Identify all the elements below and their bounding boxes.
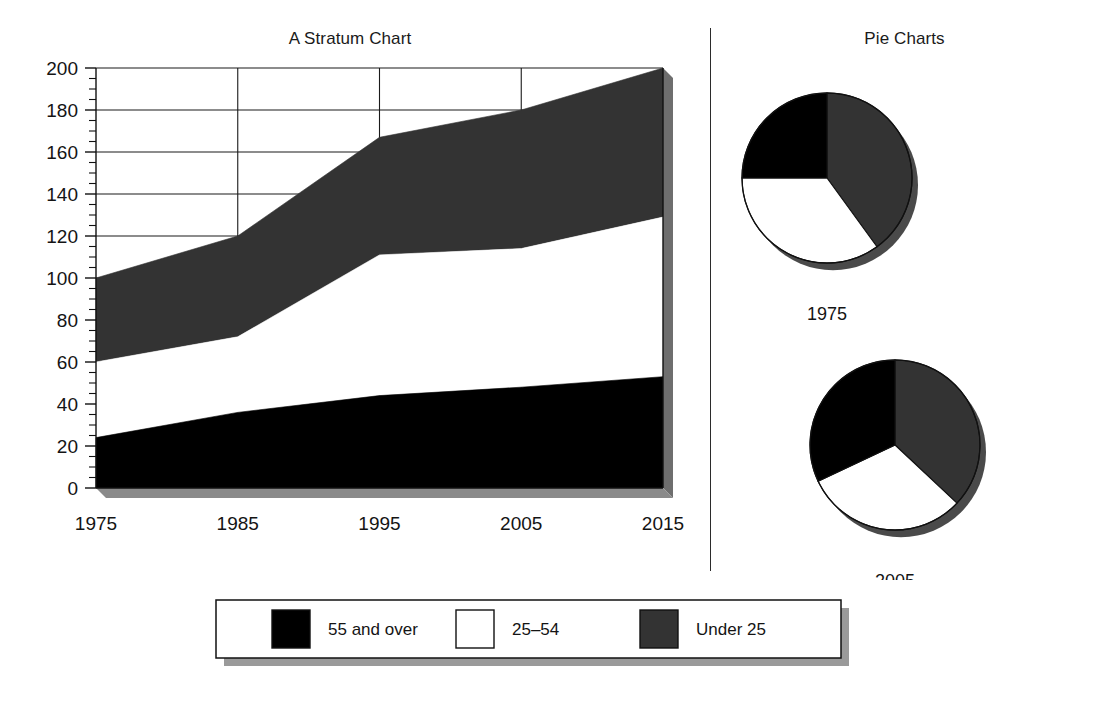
y-tick-label: 160: [46, 142, 78, 163]
pie-charts-title: Pie Charts: [712, 29, 1097, 49]
legend-swatch: [272, 610, 310, 648]
y-tick-label: 140: [46, 184, 78, 205]
y-tick-label: 100: [46, 268, 78, 289]
x-tick-label: 1995: [358, 513, 400, 534]
legend-swatch: [456, 610, 494, 648]
stratum-chart-title: A Stratum Chart: [0, 29, 700, 49]
stratum-chart: 0204060801001201401601802001975198519952…: [0, 50, 705, 560]
chart-legend: 55 and over25–54Under 25: [210, 596, 870, 686]
y-tick-label: 200: [46, 58, 78, 79]
y-tick-label: 0: [67, 478, 78, 499]
y-tick-label: 20: [57, 436, 78, 457]
legend-label: 25–54: [512, 620, 559, 639]
x-tick-label: 1975: [75, 513, 117, 534]
y-tick-label: 80: [57, 310, 78, 331]
legend-label: 55 and over: [328, 620, 418, 639]
pie-slice: [742, 93, 827, 178]
y-tick-label: 60: [57, 352, 78, 373]
legend-swatch: [640, 610, 678, 648]
panel-divider: [710, 28, 711, 571]
y-tick-label: 120: [46, 226, 78, 247]
x-tick-label: 2005: [500, 513, 542, 534]
legend-label: Under 25: [696, 620, 766, 639]
x-tick-label: 1985: [217, 513, 259, 534]
pie-year-label: 2005: [875, 571, 915, 580]
x-tick-label: 2015: [642, 513, 684, 534]
y-tick-label: 40: [57, 394, 78, 415]
y-tick-label: 180: [46, 100, 78, 121]
pie-year-label: 1975: [807, 304, 847, 324]
chart-page: A Stratum Chart Pie Charts 0204060801001…: [0, 0, 1097, 716]
pie-charts: 19752005: [712, 50, 1097, 580]
